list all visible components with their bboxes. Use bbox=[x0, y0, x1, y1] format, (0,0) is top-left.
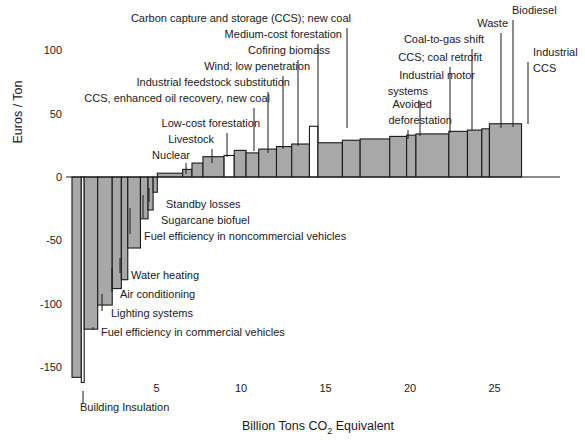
annotation-label-top: Carbon capture and storage (CCS); new co… bbox=[131, 12, 351, 24]
annotation-label-top: systems bbox=[388, 85, 429, 97]
bar bbox=[416, 134, 449, 177]
bar bbox=[482, 129, 490, 177]
annotation-label-bottom: Building Insulation bbox=[80, 401, 169, 413]
annotation-label-bottom: Standby losses bbox=[166, 198, 241, 210]
y-tick-label: -150 bbox=[40, 361, 62, 373]
annotation-label-top: Cofiring biomass bbox=[248, 44, 330, 56]
y-tick-label: 0 bbox=[56, 171, 62, 183]
bar bbox=[407, 135, 416, 177]
annotation-label-bottom: Air conditioning bbox=[120, 288, 195, 300]
bar bbox=[203, 157, 224, 177]
annotation-label-bottom: Fuel efficiency in commercial vehicles bbox=[101, 326, 285, 338]
bar bbox=[157, 173, 182, 177]
bar bbox=[140, 177, 148, 219]
annotation-label-top: Waste bbox=[477, 17, 508, 29]
x-tick-label: 20 bbox=[404, 382, 416, 394]
x-tick-label: 15 bbox=[319, 382, 331, 394]
annotation-label-bottom: Lighting systems bbox=[111, 307, 193, 319]
annotation-label-top: Industrial bbox=[533, 46, 578, 58]
x-title-pre: Billion Tons CO bbox=[242, 419, 328, 433]
bar bbox=[276, 147, 291, 177]
annotation-label-top: Industrial motor bbox=[399, 69, 475, 81]
y-tick-label: 50 bbox=[50, 108, 62, 120]
annotation-label-bottom: Fuel efficiency in noncommercial vehicle… bbox=[144, 230, 347, 242]
bar bbox=[84, 177, 98, 329]
annotation-label-top: CCS bbox=[533, 62, 556, 74]
annotation-label-bottom: Sugarcane biofuel bbox=[161, 214, 250, 226]
bar bbox=[390, 136, 407, 177]
bar bbox=[318, 143, 343, 177]
annotation-label-top: CCS, enhanced oil recovery, new coal bbox=[84, 92, 270, 104]
annotation-label-top: Industrial feedstock substitution bbox=[137, 76, 290, 88]
x-axis-title: Billion Tons CO2 Equivalent bbox=[242, 419, 395, 436]
annotation-label-top: CCS; coal retrofit bbox=[398, 51, 482, 63]
annotation-label-top: Livestock bbox=[168, 133, 214, 145]
bar bbox=[234, 150, 246, 177]
bar bbox=[72, 177, 81, 377]
x-tick-label: 25 bbox=[488, 382, 500, 394]
bar bbox=[360, 139, 390, 177]
x-tick-label: 5 bbox=[153, 382, 159, 394]
y-tick-label: -100 bbox=[40, 298, 62, 310]
x-tick-label: 10 bbox=[235, 382, 247, 394]
chart-canvas: 100500-50-100-150 510152025 Carbon captu… bbox=[0, 0, 585, 444]
annotation-label-top: Nuclear bbox=[152, 149, 190, 161]
annotation-label-top: Coal-to-gas shift bbox=[404, 33, 484, 45]
annotation-label-bottom: Water heating bbox=[131, 269, 199, 281]
bar bbox=[467, 130, 481, 177]
annotation-label-top: Low-cost forestation bbox=[162, 117, 260, 129]
annotation-label-top: deforestation bbox=[388, 114, 452, 126]
bar bbox=[192, 163, 203, 177]
bar bbox=[292, 144, 310, 177]
x-tick-labels: 510152025 bbox=[153, 382, 500, 394]
y-axis-title: Euros / Ton bbox=[11, 80, 25, 143]
bar bbox=[224, 155, 234, 177]
y-tick-label: -50 bbox=[46, 234, 62, 246]
bar bbox=[183, 169, 192, 177]
bar bbox=[246, 153, 259, 177]
annotation-label-top: Wind; low penetration bbox=[204, 60, 310, 72]
bar bbox=[309, 126, 317, 177]
bar bbox=[342, 140, 360, 177]
annotation-layer: Carbon capture and storage (CCS); new co… bbox=[80, 4, 578, 413]
bar bbox=[259, 149, 277, 177]
y-tick-label: 100 bbox=[44, 44, 62, 56]
bar bbox=[153, 177, 157, 192]
bar bbox=[98, 177, 113, 305]
annotation-label-top: Avoided bbox=[392, 98, 432, 110]
bar bbox=[489, 124, 521, 177]
annotation-label-top: Medium-cost forestation bbox=[225, 28, 342, 40]
x-title-post: Equivalent bbox=[332, 419, 394, 433]
bars-layer bbox=[72, 124, 522, 383]
bar bbox=[449, 131, 468, 177]
bar bbox=[121, 177, 127, 280]
annotation-label-top: Biodiesel bbox=[512, 4, 557, 16]
y-tick-labels: 100500-50-100-150 bbox=[40, 44, 62, 373]
abatement-cost-curve-chart: 100500-50-100-150 510152025 Carbon captu… bbox=[0, 0, 585, 444]
